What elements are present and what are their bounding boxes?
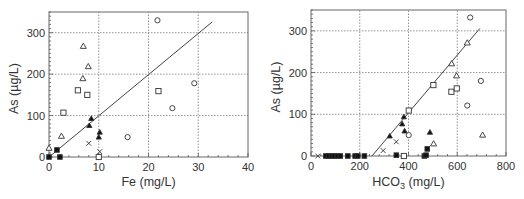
- data-point: [155, 18, 160, 23]
- y-tick-label: 0: [301, 150, 307, 162]
- data-point: [454, 73, 460, 78]
- data-point: [356, 154, 361, 159]
- y-tick-label: 200: [27, 68, 45, 80]
- x-tick-label: 40: [242, 161, 254, 173]
- data-point: [125, 135, 130, 140]
- data-point: [454, 86, 459, 91]
- y-axis-label: As (µg/L): [7, 63, 21, 114]
- y-tick-label: 100: [289, 108, 307, 120]
- x-tick-label: 800: [497, 160, 515, 172]
- series-cross: [86, 141, 102, 154]
- x-tick-label: 10: [93, 161, 105, 173]
- data-point: [86, 141, 91, 146]
- x-tick-label: 0: [46, 161, 52, 173]
- data-point: [338, 154, 343, 159]
- y-tick-label: 200: [289, 67, 307, 79]
- data-point: [96, 154, 101, 159]
- chart-panel-2: 02004006008000100200300HCO3 (mg/L)As (µg…: [269, 10, 515, 191]
- data-point: [431, 82, 436, 87]
- x-tick-label: 400: [399, 160, 417, 172]
- data-point: [406, 108, 411, 113]
- figure: 0102030400100200300Fe (mg/L)As (µg/L)020…: [0, 0, 524, 199]
- x-tick-label: 0: [308, 160, 314, 172]
- data-point: [46, 145, 52, 150]
- data-point: [394, 153, 399, 158]
- data-point: [89, 116, 94, 121]
- data-point: [468, 15, 473, 20]
- y-axis-label: As (µg/L): [269, 62, 283, 113]
- y-tick-label: 300: [289, 25, 307, 37]
- data-point: [192, 81, 197, 86]
- data-point: [58, 133, 64, 138]
- data-point: [97, 149, 102, 154]
- chart-panel-1: 0102030400100200300Fe (mg/L)As (µg/L): [7, 12, 254, 189]
- data-point: [381, 148, 386, 153]
- x-tick-label: 20: [142, 161, 154, 173]
- y-tick-label: 0: [39, 151, 45, 163]
- data-point: [402, 128, 407, 133]
- data-point: [401, 153, 406, 158]
- data-point: [96, 135, 101, 140]
- data-point: [449, 89, 454, 94]
- series-open-triangle: [431, 40, 486, 146]
- series-open-circle: [406, 15, 483, 138]
- data-point: [47, 155, 52, 160]
- data-point: [85, 63, 91, 68]
- data-point: [85, 92, 90, 97]
- x-tick-label: 200: [351, 160, 369, 172]
- series-open-square: [61, 88, 161, 160]
- data-point: [465, 103, 470, 108]
- y-tick-label: 300: [27, 27, 45, 39]
- data-point: [478, 78, 483, 83]
- data-point: [425, 147, 430, 152]
- y-tick-label: 100: [27, 110, 45, 122]
- x-axis-label: Fe (mg/L): [121, 175, 175, 189]
- data-point: [394, 139, 399, 144]
- series-open-circle: [125, 18, 197, 140]
- data-point: [61, 110, 66, 115]
- series-open-square: [401, 82, 459, 158]
- gridlines: [49, 12, 248, 157]
- data-point: [387, 133, 392, 138]
- data-point: [424, 153, 429, 158]
- data-point: [427, 130, 432, 135]
- data-point: [480, 132, 486, 137]
- x-tick-label: 30: [192, 161, 204, 173]
- scatter-charts: 0102030400100200300Fe (mg/L)As (µg/L)020…: [0, 0, 524, 199]
- data-point: [362, 154, 367, 159]
- series-filled-square: [324, 147, 430, 159]
- data-point: [75, 88, 80, 93]
- data-point: [449, 61, 455, 66]
- x-tick-label: 600: [448, 160, 466, 172]
- data-point: [55, 148, 60, 153]
- data-point: [170, 106, 175, 111]
- x-axis-label: HCO3 (mg/L): [372, 175, 444, 191]
- data-point: [346, 154, 351, 159]
- data-point: [431, 141, 437, 146]
- data-point: [97, 130, 102, 135]
- data-point: [80, 43, 86, 48]
- data-point: [58, 155, 63, 160]
- data-point: [156, 89, 161, 94]
- data-point: [80, 76, 86, 81]
